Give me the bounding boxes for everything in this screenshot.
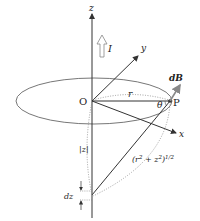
angle-label: θ [157, 100, 163, 110]
abs-z-label: |z| [79, 145, 89, 154]
x-axis [92, 101, 176, 133]
field-label: dB [169, 73, 183, 83]
distance-label: (r2 + z2)1/2 [132, 154, 174, 164]
distance-line [92, 101, 170, 195]
point-label: P [173, 97, 180, 108]
y-axis-label: y [140, 43, 147, 53]
x-axis-label: x [179, 129, 184, 139]
origin-label: O [79, 96, 87, 107]
radius-label: r [128, 89, 133, 99]
dz-label: dz [64, 192, 74, 201]
z-axis-label: z [88, 3, 94, 13]
current-arrow-icon [97, 35, 107, 57]
current-label: I [107, 43, 113, 54]
diagram-svg: z I y x r O P dB θ (r2 + z2)1/2 |z| dz [0, 0, 200, 221]
diagram-canvas: z I y x r O P dB θ (r2 + z2)1/2 |z| dz [0, 0, 200, 221]
